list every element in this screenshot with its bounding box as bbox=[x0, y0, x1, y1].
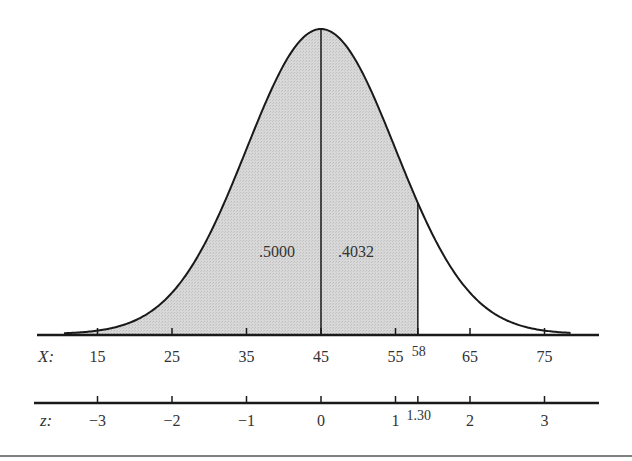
area-label-left: .5000 bbox=[259, 243, 295, 260]
tick-label: 58 bbox=[412, 344, 426, 359]
tick-label: −2 bbox=[163, 412, 180, 429]
area-label-right: .4032 bbox=[338, 243, 374, 260]
tick-label: 1 bbox=[392, 412, 400, 429]
x-axis-label: X: bbox=[37, 347, 54, 366]
shaded-area bbox=[64, 29, 418, 334]
z-axis-ticks: −3−2−1011.3023 bbox=[89, 396, 549, 429]
tick-label: 1.30 bbox=[407, 408, 432, 423]
tick-label: 65 bbox=[462, 348, 478, 365]
tick-label: 55 bbox=[388, 348, 404, 365]
tick-label: 15 bbox=[90, 348, 106, 365]
tick-label: 35 bbox=[239, 348, 255, 365]
tick-label: 45 bbox=[313, 348, 329, 365]
tick-label: 2 bbox=[466, 412, 474, 429]
normal-distribution-chart: .5000 .4032 X: 1525354555586575 z: −3−2−… bbox=[0, 0, 632, 461]
z-axis-label: z: bbox=[39, 411, 52, 430]
tick-label: 25 bbox=[164, 348, 180, 365]
tick-label: −3 bbox=[89, 412, 106, 429]
tick-label: −1 bbox=[238, 412, 255, 429]
tick-label: 3 bbox=[541, 412, 549, 429]
tick-label: 0 bbox=[317, 412, 325, 429]
tick-label: 75 bbox=[537, 348, 553, 365]
